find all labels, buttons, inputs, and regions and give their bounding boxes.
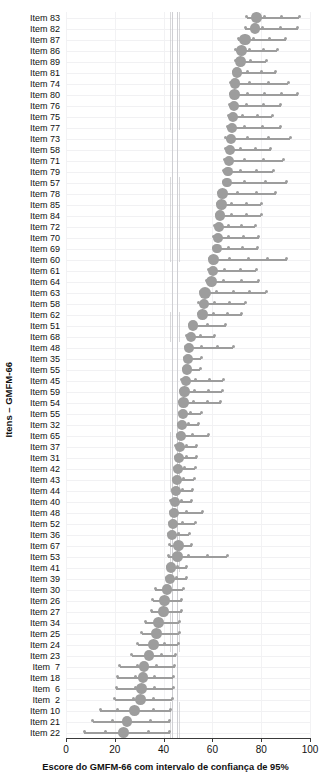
y-tick-label: Item 18 <box>0 673 60 683</box>
estimate-dot <box>206 276 217 287</box>
estimate-dot <box>153 617 164 628</box>
x-tick-label: 20 <box>100 744 130 755</box>
y-tick-label: Item 86 <box>0 46 60 56</box>
y-tick-label: Item 2 <box>0 695 60 705</box>
y-tick-label: Item 57 <box>0 178 60 188</box>
estimate-dot <box>165 574 175 584</box>
estimate-dot <box>208 254 219 265</box>
ci-endpoint-dot <box>224 323 227 326</box>
ci-tick-dot <box>245 213 248 216</box>
ci-tick-dot <box>153 686 156 689</box>
ci-endpoint-dot <box>154 587 157 590</box>
ci-endpoint-dot <box>185 565 188 568</box>
ci-endpoint-dot <box>285 257 288 260</box>
y-tick-label: Item 10 <box>0 706 60 716</box>
y-tick-label: Item 82 <box>0 24 60 34</box>
y-tick-label: Item 81 <box>0 68 60 78</box>
x-gridline <box>310 12 311 738</box>
ci-tick-dot <box>111 719 114 722</box>
y-tick-label: Item 32 <box>0 420 60 430</box>
estimate-dot <box>135 694 146 705</box>
y-tick-label: Item 23 <box>0 651 60 661</box>
estimate-dot <box>229 101 239 111</box>
ci-endpoint-dot <box>174 653 177 656</box>
y-tick-label: Item 76 <box>0 101 60 111</box>
y-tick-label: Item 53 <box>0 552 60 562</box>
ci-tick-dot <box>248 48 251 51</box>
y-tick-label: Item 87 <box>0 35 60 45</box>
estimate-dot <box>138 672 148 682</box>
y-tick-label: Item 85 <box>0 200 60 210</box>
ci-endpoint-dot <box>191 488 194 491</box>
x-tick-mark <box>310 738 311 742</box>
ci-tick-dot <box>175 576 178 579</box>
ci-tick-dot <box>181 521 184 524</box>
ci-tick-dot <box>227 246 230 249</box>
estimate-dot <box>199 299 209 309</box>
ci-tick-dot <box>263 92 266 95</box>
ci-endpoint-dot <box>219 400 222 403</box>
ci-endpoint-dot <box>200 411 203 414</box>
estimate-dot <box>129 705 140 716</box>
ci-endpoint-dot <box>289 136 292 139</box>
estimate-dot <box>173 540 184 551</box>
y-tick-label: Item 79 <box>0 167 60 177</box>
ci-endpoint-dot <box>199 367 202 370</box>
ci-endpoint-dot <box>201 510 204 513</box>
estimate-dot <box>181 376 191 386</box>
plot-area <box>66 12 310 738</box>
y-tick-label: Item 22 <box>0 728 60 738</box>
y-tick-label: Item 36 <box>0 530 60 540</box>
ci-tick-dot <box>263 15 266 18</box>
ci-endpoint-dot <box>83 730 86 733</box>
ci-endpoint-dot <box>168 730 171 733</box>
ci-tick-dot <box>226 312 229 315</box>
y-tick-label: Item 51 <box>0 321 60 331</box>
estimate-dot <box>188 320 198 330</box>
ci-endpoint-dot <box>254 224 257 227</box>
ci-tick-dot <box>185 455 188 458</box>
ci-tick-dot <box>160 653 163 656</box>
ci-endpoint-dot <box>172 675 175 678</box>
estimate-dot <box>224 156 234 166</box>
ci-endpoint-dot <box>256 246 259 249</box>
estimate-dot <box>178 409 188 419</box>
ci-endpoint-dot <box>279 103 282 106</box>
ci-endpoint-dot <box>194 466 197 469</box>
ci-tick-dot <box>147 730 150 733</box>
ci-endpoint-dot <box>171 697 174 700</box>
estimate-dot <box>226 134 236 144</box>
estimate-dot <box>214 222 224 232</box>
y-tick-label: Item 74 <box>0 79 60 89</box>
y-tick-label: Item 21 <box>0 717 60 727</box>
ci-endpoint-dot <box>195 444 198 447</box>
x-tick-mark <box>261 738 262 742</box>
y-tick-label: Item 72 <box>0 222 60 232</box>
ci-endpoint-dot <box>116 675 119 678</box>
y-tick-label: Item 55 <box>0 365 60 375</box>
estimate-dot <box>230 78 240 88</box>
y-tick-label: Item 64 <box>0 277 60 287</box>
y-tick-label: Item 75 <box>0 112 60 122</box>
x-tick-label: 80 <box>246 744 276 755</box>
ci-endpoint-dot <box>257 279 260 282</box>
y-tick-label: Item 35 <box>0 354 60 364</box>
estimate-dot <box>162 584 172 594</box>
ci-tick-dot <box>189 411 192 414</box>
y-tick-label: Item 54 <box>0 398 60 408</box>
estimate-dot <box>212 244 222 254</box>
ci-endpoint-dot <box>287 81 290 84</box>
y-tick-label: Item 69 <box>0 244 60 254</box>
y-tick-label: Item 67 <box>0 541 60 551</box>
ci-tick-dot <box>230 213 233 216</box>
estimate-dot <box>173 464 183 474</box>
estimate-dot <box>197 309 208 320</box>
ci-endpoint-dot <box>169 708 172 711</box>
y-tick-label: Item 68 <box>0 332 60 342</box>
estimate-dot <box>175 442 185 452</box>
confidence-interval-bar <box>223 182 286 184</box>
ci-tick-dot <box>228 257 231 260</box>
estimate-dot <box>118 727 129 738</box>
ci-tick-dot <box>240 279 243 282</box>
estimate-dot <box>177 420 187 430</box>
